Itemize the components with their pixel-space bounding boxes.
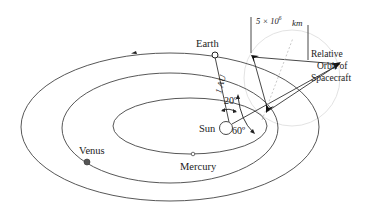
relative-orbit-edge (268, 64, 339, 111)
orbital-diagram: Earth Sun Venus Mercury 1 AU 20º 60º 5 ×… (0, 0, 372, 210)
mercury-icon (191, 152, 195, 156)
orbit-direction-arrow-icon (131, 51, 137, 54)
earth-label: Earth (196, 38, 219, 49)
venus-icon (84, 159, 90, 165)
distance-label: 1 AU (213, 73, 228, 94)
mercury-label: Mercury (180, 161, 217, 172)
earth-icon (212, 52, 218, 58)
relative-orbit-label-line1: Relative (311, 49, 343, 59)
earth-orbit (21, 53, 319, 201)
relative-orbit-label-line3: Spacecraft (311, 73, 351, 83)
venus-label: Venus (79, 145, 105, 156)
relative-orbit-label-line2: Orbit of (317, 61, 348, 71)
angle-60-label: 60º (232, 125, 245, 136)
sun-icon (220, 122, 233, 135)
scale-base: 5 × 10 (256, 16, 279, 26)
scale-label: 5 × 106 (256, 15, 282, 26)
angle-20-label: 20º (224, 95, 237, 106)
sun-label: Sun (199, 123, 216, 134)
spacecraft-marker-icon (251, 55, 259, 62)
relative-orbit-edge (253, 57, 268, 111)
angle-arrow-icon (221, 108, 225, 112)
scale-exponent: 6 (279, 15, 282, 21)
angle-arrow-icon (233, 109, 237, 113)
scale-unit-label: km (292, 18, 303, 28)
